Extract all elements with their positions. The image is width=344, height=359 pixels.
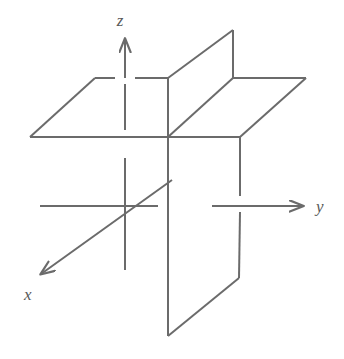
yz-plane-lower [168, 137, 240, 336]
yz-plane-upper-top-slant [168, 30, 233, 78]
x-axis [41, 180, 172, 274]
x-axis-line [41, 180, 172, 274]
yz-plane-lower-right-edge-lower [239, 212, 240, 278]
y-axis-label: y [314, 197, 324, 216]
xy-plane-left-edge [30, 78, 95, 137]
x-axis-label: x [23, 285, 32, 304]
yz-plane-upper [168, 30, 233, 137]
yz-plane-upper-bottom-slant [168, 78, 233, 137]
figure-canvas: z y x [0, 0, 344, 359]
coordinate-axes-diagram: z y x [0, 0, 344, 359]
yz-plane-lower-bottom-slant [168, 278, 239, 336]
z-axis-label: z [116, 11, 124, 30]
xy-plane-right-edge [240, 78, 306, 137]
